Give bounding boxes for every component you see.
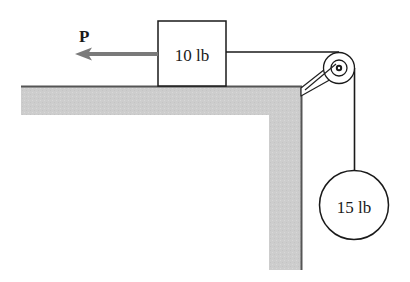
force-label-p: P — [79, 28, 89, 45]
pulley — [305, 53, 355, 91]
force-arrow-p — [75, 48, 158, 61]
diagram-canvas — [0, 0, 410, 282]
pulley-diagram: P 10 lb 15 lb — [0, 0, 410, 282]
block-weight-label: 10 lb — [175, 47, 209, 64]
table-body — [21, 86, 302, 270]
sphere-weight-label: 15 lb — [337, 199, 371, 216]
table — [21, 86, 302, 270]
